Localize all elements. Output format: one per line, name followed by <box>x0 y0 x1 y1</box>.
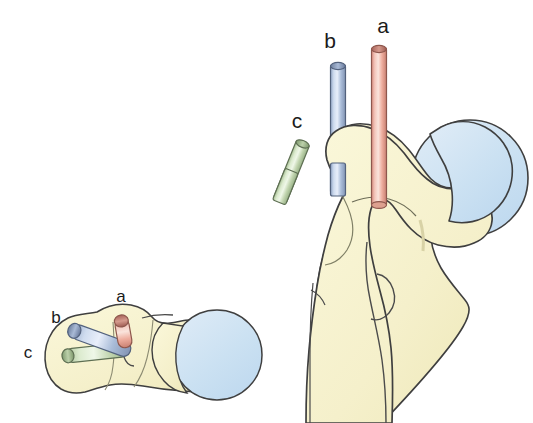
anterior-view-figure: a b c <box>273 14 528 423</box>
anterior-pin-a-shaft <box>372 48 387 206</box>
anterior-pin-a-tip <box>372 202 387 209</box>
anterior-label-a: a <box>377 14 389 37</box>
anterior-pin-b-tip-shaft <box>331 163 346 196</box>
anterior-pin-c-tip <box>273 168 299 205</box>
superior-label-a: a <box>116 287 126 306</box>
anatomical-figure: a b c <box>0 0 533 423</box>
anterior-pin-c-tip-shaft <box>273 168 299 205</box>
superior-femoral-head <box>172 310 262 400</box>
anterior-label-c: c <box>292 109 303 132</box>
anterior-pin-a-cap <box>372 45 387 52</box>
superior-view-figure: a b c <box>24 287 262 400</box>
anterior-pin-a <box>372 45 387 208</box>
superior-label-c: c <box>24 343 33 362</box>
figure-caption <box>0 411 533 423</box>
anterior-label-b: b <box>324 29 336 52</box>
anterior-pin-b-cap <box>331 62 346 69</box>
femur-illustration-svg: a b c <box>0 0 533 423</box>
anterior-pin-b-tip <box>331 163 346 196</box>
superior-label-b: b <box>51 308 60 327</box>
